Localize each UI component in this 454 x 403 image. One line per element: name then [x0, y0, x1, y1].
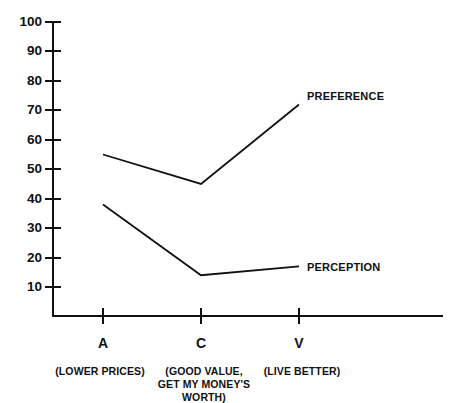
- y-tick-label-10: 10: [27, 279, 42, 294]
- y-tick-label-30: 30: [27, 220, 42, 235]
- x-category-label-a: A: [98, 335, 108, 351]
- x-category-label-c: C: [196, 335, 206, 351]
- series-label-preference: PREFERENCE: [307, 90, 384, 102]
- y-tick-label-60: 60: [27, 132, 42, 147]
- y-tick-label-100: 100: [19, 14, 42, 29]
- x-category-label-v: V: [294, 335, 304, 351]
- x-description-v-line1: (LIVE BETTER): [264, 365, 341, 377]
- line-chart: 100 90 80 70 60 50 40 30 20 10 A C V (LO…: [0, 0, 454, 403]
- chart-canvas: 100 90 80 70 60 50 40 30 20 10 A C V (LO…: [0, 0, 454, 403]
- series-label-perception: PERCEPTION: [307, 261, 381, 273]
- series-line-preference: [103, 104, 299, 184]
- series-line-perception: [103, 205, 299, 276]
- x-description-c-line1: (GOOD VALUE,: [165, 365, 242, 377]
- y-tick-label-20: 20: [27, 250, 42, 265]
- y-tick-label-90: 90: [27, 43, 42, 58]
- x-description-c-line2: GET MY MONEY'S: [158, 378, 250, 390]
- y-tick-label-70: 70: [27, 102, 42, 117]
- y-tick-label-50: 50: [27, 161, 42, 176]
- x-description-c-line3: WORTH): [182, 391, 226, 403]
- y-tick-label-80: 80: [27, 73, 42, 88]
- y-tick-label-40: 40: [27, 191, 42, 206]
- x-description-a-line1: (LOWER PRICES): [55, 365, 144, 377]
